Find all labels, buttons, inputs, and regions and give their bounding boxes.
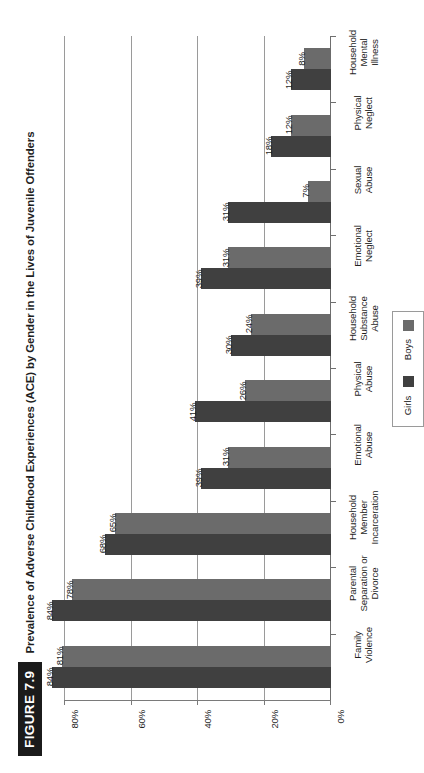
bar-row: 41% [65,401,331,422]
bar-value-label: 30% [223,336,234,355]
category-label-line: Abuse [369,296,380,341]
category-label: PhysicalNeglect [330,102,396,168]
figure-container: FIGURE 7.9 Prevalence of Adverse Childho… [0,0,424,773]
category-label: EmotionalAbuse [330,434,396,500]
bar-value-label: 26% [236,381,247,400]
bar-girls [195,401,331,422]
bar-row: 12% [65,115,331,136]
category-label: FamilyViolence [330,634,396,700]
figure-number-badge: FIGURE 7.9 [18,662,42,756]
bar-group: 8%12% [65,36,331,102]
category-label-line: Mental [358,30,369,75]
bar-group: 31%39% [65,434,331,500]
bar-girls [52,600,331,621]
bar-row: 81% [65,646,331,667]
legend-label-wrap: Girls [398,392,418,418]
legend-item-girls[interactable]: Girls [398,376,418,418]
category-label: PhysicalAbuse [330,368,396,434]
bar-girls [52,667,331,688]
bar-row: 31% [65,247,331,268]
bar-value-label: 7% [299,185,310,198]
bar-value-label: 41% [186,402,197,421]
figure-title: Prevalence of Adverse Childhood Experien… [24,132,36,654]
bar-row: 68% [65,534,331,555]
x-tick-label: 40% [202,710,213,729]
bar-group: 12%18% [65,102,331,168]
bar-value-label: 18% [263,137,274,156]
legend-swatch [403,376,414,387]
bar-value-label: 8% [296,52,307,65]
chart-legend: GirlsBoys [392,311,424,427]
category-label: HouseholdMentalIllness [330,36,396,102]
category-label: HouseholdMemberIncarceration [330,501,396,567]
bar-value-label: 65% [106,514,117,533]
bar-row: 31% [65,202,331,223]
bar-row: 26% [65,380,331,401]
bar-row: 39% [65,268,331,289]
x-tick [197,700,198,705]
x-tick-label: 80% [69,710,80,729]
bar-boys [115,513,331,534]
bar-row: 24% [65,314,331,335]
x-tick [330,700,331,705]
bar-group: 65%68% [65,501,331,567]
bar-value-label: 31% [219,203,230,222]
bar-value-label: 78% [63,581,74,600]
legend-label: Girls [403,395,414,415]
bar-boys [291,115,331,136]
bar-girls [228,202,331,223]
bar-row: 18% [65,136,331,157]
bar-boys [228,247,331,268]
bar-value-label: 24% [243,315,254,334]
bar-group: 7%31% [65,169,331,235]
bar-girls [231,335,331,356]
category-label-line: Household [347,30,358,75]
bar-value-label: 39% [193,270,204,289]
bar-boys [251,314,331,335]
bar-row: 12% [65,69,331,90]
bar-group: 24%30% [65,302,331,368]
legend-label-wrap: Boys [397,336,418,362]
figure-caption-strip: FIGURE 7.9 Prevalence of Adverse Childho… [0,0,46,773]
category-label: SexualAbuse [330,169,396,235]
category-label: ParentalSeparation orDivorce [330,567,396,633]
category-label-line: Sexual [352,165,363,194]
bar-row: 78% [65,579,331,600]
x-tick-label: 0% [335,710,346,723]
bar-value-label: 12% [283,116,294,135]
legend-swatch [403,320,414,331]
bar-value-label: 84% [43,602,54,621]
bar-value-label: 31% [219,249,230,268]
bar-groups: 81%84%78%84%65%68%31%39%26%41%24%30%31%3… [65,36,331,700]
bar-value-label: 39% [193,469,204,488]
bar-girls [105,534,331,555]
bar-girls [271,136,331,157]
bar-row: 30% [65,335,331,356]
category-label-line: Abuse [363,165,374,194]
x-tick-label: 60% [136,710,147,729]
bar-boys [72,579,331,600]
bar-row: 7% [65,181,331,202]
category-label: HouseholdSubstanceAbuse [330,302,396,368]
bar-group: 78%84% [65,567,331,633]
category-label-line: Illness [369,30,380,75]
bar-row: 39% [65,468,331,489]
bar-boys [304,48,331,69]
bar-group: 31%39% [65,235,331,301]
bar-boys [245,380,331,401]
legend-label: Boys [403,338,414,359]
bar-row: 31% [65,447,331,468]
x-tick [131,700,132,705]
bar-boys [308,181,331,202]
bar-value-label: 81% [53,647,64,666]
category-label: EmotionalNeglect [330,235,396,301]
category-label-line: Household [347,296,358,341]
bar-value-label: 31% [219,448,230,467]
legend-item-boys[interactable]: Boys [397,320,418,362]
bar-group: 26%41% [65,368,331,434]
bar-boys [62,646,331,667]
bar-girls [291,69,331,90]
category-label-line: Substance [358,296,369,341]
category-axis-labels: FamilyViolenceParentalSeparation orDivor… [330,36,396,700]
bar-value-label: 68% [96,535,107,554]
